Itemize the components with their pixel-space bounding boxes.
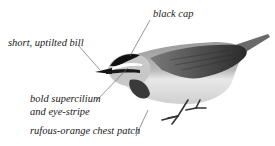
- label-supercilium-line2: and eye-stripe: [30, 106, 90, 118]
- label-bill: short, uptilted bill: [8, 37, 84, 49]
- label-chest-patch: rufous-orange chest patch: [30, 125, 140, 137]
- leader-line-black-cap: [130, 20, 150, 56]
- bill: [95, 68, 112, 74]
- label-supercilium-line1: bold supercilium: [30, 93, 100, 105]
- label-black-cap: black cap: [153, 8, 194, 20]
- bird-diagram: black cap short, uptilted bill bold supe…: [0, 0, 275, 146]
